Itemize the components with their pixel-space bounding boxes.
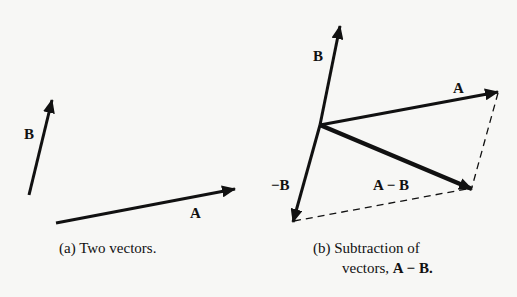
vector-b-arrow-b [320,26,340,125]
vector-b-arrow [29,100,52,195]
dashed-line-a-tip [472,93,498,187]
vector-a-arrow-b [320,92,498,125]
label-neg-b: −B [271,178,290,193]
caption-a: (a) Two vectors. [59,239,156,257]
caption-b-line2-bold: A − B. [393,260,433,276]
caption-b-line1: (b) Subtraction of [313,239,420,257]
vector-a-arrow [56,189,235,223]
vector-neg-b-arrow [293,125,320,222]
label-a-a: A [190,206,201,221]
figure-a-vectors [29,100,235,223]
label-a-minus-b: A − B [373,178,409,193]
caption-b-line2: vectors, A − B. [342,259,433,277]
label-b-a: B [24,127,34,142]
label-a-b: A [453,81,464,96]
label-b-b: B [313,49,323,64]
caption-b-line2-prefix: vectors, [342,260,393,276]
